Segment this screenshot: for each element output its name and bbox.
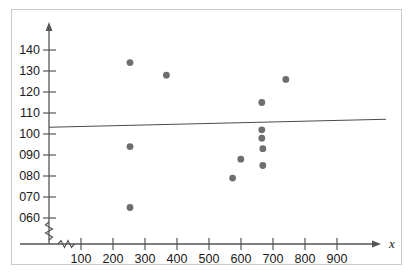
x-axis-title: x [389, 236, 395, 252]
data-point [259, 162, 266, 169]
y-tick-label: 090 [6, 148, 40, 162]
scatter-points [127, 59, 290, 211]
y-tick-label: 130 [6, 64, 40, 78]
data-point [259, 145, 266, 152]
plot-canvas [0, 0, 416, 276]
y-tick-label: 140 [6, 43, 40, 57]
data-point [258, 135, 265, 142]
y-tick-label: 080 [6, 169, 40, 183]
data-point [258, 126, 265, 133]
scatter-plot-figure: 140 130 120 110 100 090 080 070 060 100 … [0, 0, 416, 276]
data-point [127, 204, 134, 211]
regression-line [49, 119, 386, 127]
data-point [127, 143, 134, 150]
x-tick-label: 900 [317, 252, 357, 266]
data-point [163, 72, 170, 79]
y-tick-label: 110 [6, 106, 40, 120]
y-tick-label: 070 [6, 190, 40, 204]
y-axis [46, 22, 53, 244]
data-point [127, 59, 134, 66]
data-point [282, 76, 289, 83]
data-point [229, 175, 236, 182]
y-tick-label: 100 [6, 127, 40, 141]
data-point [258, 99, 265, 106]
data-point [237, 156, 244, 163]
y-tick-label: 060 [6, 211, 40, 225]
y-tick-label: 120 [6, 85, 40, 99]
